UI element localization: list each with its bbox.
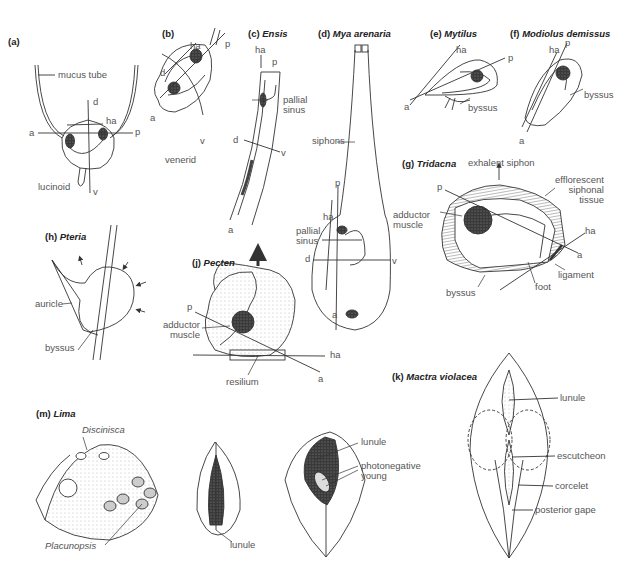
panel-k-title: (k) Mactra violacea — [392, 371, 477, 382]
label-g-adductor-muscle: adductor muscle — [393, 210, 430, 230]
label-c-v: v — [281, 148, 286, 158]
panel-b-title: (b) — [162, 28, 174, 39]
panel-m-title: (m) Lima — [36, 408, 76, 419]
label-g-p: p — [437, 182, 442, 192]
label-g-exhalent-siphon: exhalent siphon — [468, 158, 535, 168]
label-b-ha: ha — [190, 41, 201, 51]
panel-g-title: (g) Tridacna — [402, 158, 456, 169]
label-k-escutcheon: escutcheon — [557, 451, 606, 461]
label-m-lunule-middle: lunule — [230, 540, 255, 550]
panel-j-title: (j) Pecten — [192, 257, 235, 268]
label-d-v: v — [392, 256, 397, 266]
label-b-p: p — [225, 39, 230, 49]
label-mucus-tube: mucus tube — [58, 70, 107, 80]
label-b-v: v — [200, 136, 205, 146]
label-g-ha: ha — [585, 226, 596, 236]
label-f-byssus: byssus — [584, 90, 614, 100]
caption-lucinoid: lucinoid — [38, 182, 70, 192]
label-f-a: a — [519, 136, 524, 146]
panel-d-title: (d) Mya arenaria — [318, 28, 391, 39]
label-h-auricle: auricle — [35, 299, 63, 309]
label-a-v: v — [93, 187, 98, 197]
label-d-a: a — [332, 310, 337, 320]
label-g-efflorescent-siphonal-tissue: efflorescent siphonal tissue — [555, 175, 604, 205]
panel-f-title: (f) Modiolus demissus — [510, 28, 610, 39]
panel-a-title: (a) — [8, 36, 20, 47]
label-m-placunopsis: Placunopsis — [45, 541, 96, 551]
label-j-a: a — [318, 374, 323, 384]
label-c-a: a — [228, 225, 233, 235]
label-c-d: d — [233, 135, 238, 145]
panel-h-title: (h) Pteria — [45, 231, 86, 242]
label-f-ha: ha — [549, 45, 560, 55]
label-g-a: a — [577, 250, 582, 260]
label-g-foot: foot — [535, 282, 551, 292]
label-e-p: p — [508, 53, 513, 63]
label-h-byssus: byssus — [45, 343, 75, 353]
label-b-a: a — [150, 113, 155, 123]
label-d-ha: ha — [323, 212, 334, 222]
label-j-p: p — [187, 302, 192, 312]
label-a-d: d — [93, 97, 98, 107]
label-m-photonegative-young: photonegative young — [361, 461, 421, 481]
label-d-d: d — [305, 254, 310, 264]
label-e-byssus: byssus — [468, 103, 498, 113]
label-e-a: a — [404, 102, 409, 112]
label-k-corcelet: corcelet — [555, 481, 588, 491]
label-f-p: p — [565, 38, 570, 48]
label-m-lunule-right: lunule — [361, 437, 386, 447]
label-a-p: p — [135, 127, 140, 137]
caption-venerid: venerid — [165, 155, 196, 165]
label-c-ha: ha — [255, 45, 266, 55]
label-e-ha: ha — [456, 45, 467, 55]
label-g-byssus: byssus — [446, 288, 476, 298]
panel-k-drawing — [468, 353, 558, 558]
label-g-ligament: ligament — [558, 270, 594, 280]
label-m-discinisca: Discinisca — [82, 425, 125, 435]
label-d-siphons: siphons — [312, 136, 345, 146]
label-k-lunule: lunule — [560, 393, 585, 403]
panel-c-title: (c) Ensis — [248, 28, 288, 39]
panel-j-drawing — [193, 252, 325, 372]
label-k-posterior-gape: posterior gape — [535, 505, 596, 515]
label-d-pallial-sinus: pallial sinus — [296, 226, 320, 246]
label-j-resilium: resilium — [226, 377, 259, 387]
panel-a-drawing — [35, 65, 138, 193]
label-j-adductor-muscle: adductor muscle — [163, 320, 200, 340]
panel-h-drawing — [52, 225, 146, 360]
label-c-pallial-sinus: pallial sinus — [283, 95, 307, 115]
label-d-p: p — [335, 178, 340, 188]
label-j-ha: ha — [330, 350, 341, 360]
label-a-ha: ha — [106, 116, 117, 126]
label-b-d: d — [160, 68, 165, 78]
panel-f-drawing — [522, 43, 582, 132]
label-a-a: a — [29, 128, 34, 138]
label-c-p: p — [272, 57, 277, 67]
panel-m-drawing — [36, 432, 365, 557]
panel-e-title: (e) Mytilus — [430, 28, 477, 39]
panel-d-drawing — [312, 45, 391, 330]
